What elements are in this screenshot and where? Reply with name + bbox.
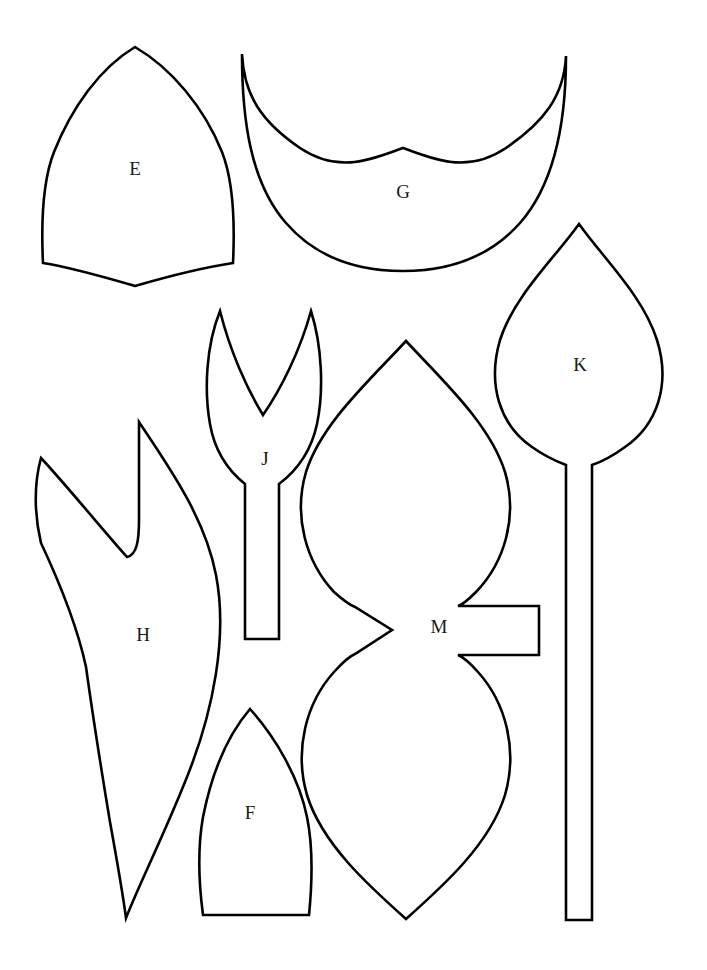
piece-label-e: E [129, 158, 141, 179]
piece-label-f: F [245, 802, 256, 823]
piece-label-h: H [136, 624, 150, 645]
piece-label-g: G [396, 181, 410, 202]
piece-label-j: J [261, 448, 268, 469]
piece-label-k: K [573, 354, 587, 375]
piece-label-m: M [431, 616, 448, 637]
pattern-sheet: EGKJHMF [0, 0, 707, 970]
pattern-canvas: EGKJHMF [0, 0, 707, 970]
